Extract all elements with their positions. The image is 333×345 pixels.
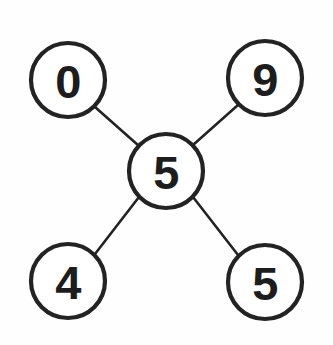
node-top-left[interactable]: 0 <box>31 43 105 117</box>
graph-canvas: 0 9 5 4 5 <box>0 0 333 345</box>
node-top-right[interactable]: 9 <box>228 41 302 115</box>
node-label-center: 5 <box>153 146 179 199</box>
node-bottom-left[interactable]: 4 <box>31 244 105 318</box>
node-link-diagram: 0 9 5 4 5 <box>0 0 333 345</box>
node-label-bottom-right: 5 <box>252 257 278 310</box>
node-label-bottom-left: 4 <box>55 256 81 309</box>
node-label-top-right: 9 <box>252 53 278 106</box>
edge-center-top-left <box>95 107 139 146</box>
node-label-top-left: 0 <box>55 55 81 108</box>
edge-center-bottom-left <box>95 197 139 254</box>
edge-center-top-right <box>193 105 238 145</box>
node-center[interactable]: 5 <box>129 134 203 208</box>
node-bottom-right[interactable]: 5 <box>228 245 302 319</box>
edge-center-bottom-right <box>193 197 238 255</box>
